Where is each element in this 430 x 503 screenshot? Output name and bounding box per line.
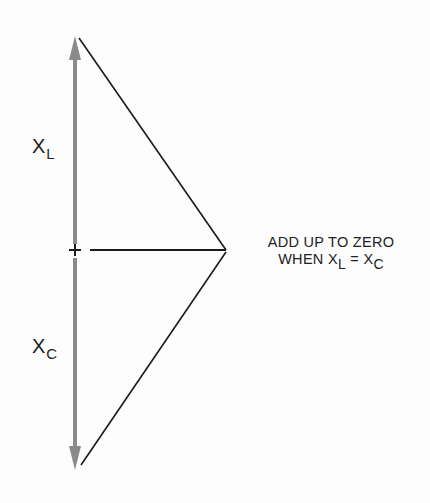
note-line-2: WHEN XL = XC (236, 251, 426, 268)
xl-label: XL (32, 136, 55, 156)
note-sub-c: C (373, 256, 383, 272)
annotation-note: ADD UP TO ZERO WHEN XL = XC (236, 234, 426, 268)
note-line-1: ADD UP TO ZERO (236, 234, 426, 251)
upper-diagonal-line (79, 38, 226, 250)
xl-label-sub: L (46, 145, 54, 162)
note-when-x: WHEN X (278, 251, 338, 267)
lower-diagonal-line (81, 252, 226, 465)
xc-label-sub: C (46, 345, 57, 362)
note-equals-x: = X (346, 251, 373, 267)
xc-label: XC (32, 336, 57, 356)
xc-label-main: X (32, 335, 45, 357)
xc-arrowhead-icon (69, 446, 81, 470)
note-sub-l: L (338, 256, 346, 272)
xl-label-main: X (32, 135, 45, 157)
